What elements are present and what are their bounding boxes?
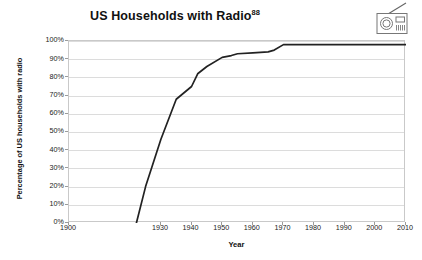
chart-figure: US Households with Radio88 Percentage of… (0, 0, 422, 260)
y-axis-tick-labels: 0%10%20%30%40%50%60%70%80%90%100% (14, 40, 64, 222)
y-axis-tick-label: 20% (16, 182, 64, 189)
y-axis-tick-label: 60% (16, 109, 64, 116)
x-axis-title: Year (68, 240, 405, 249)
radio-icon (368, 2, 416, 36)
y-axis-tick-label: 80% (16, 73, 64, 80)
y-axis-tick-label: 50% (16, 127, 64, 134)
x-axis-tick-label: 1900 (48, 224, 88, 231)
y-axis-tick-label: 100% (16, 36, 64, 43)
y-axis-tick-label: 40% (16, 146, 64, 153)
x-axis-tick-label: 2010 (385, 224, 422, 231)
chart-title-superscript: 88 (252, 8, 260, 17)
y-axis-tick-label: 30% (16, 164, 64, 171)
series-line (69, 41, 406, 223)
y-axis-tick-label: 90% (16, 55, 64, 62)
x-axis-tick-labels: 1900193019401950196019701980199020002010 (68, 224, 405, 236)
chart-title: US Households with Radio88 (60, 8, 290, 23)
chart-title-text: US Households with Radio (90, 9, 251, 23)
plot-area (68, 40, 405, 222)
y-axis-tick-label: 70% (16, 91, 64, 98)
y-axis-tick-label: 10% (16, 200, 64, 207)
